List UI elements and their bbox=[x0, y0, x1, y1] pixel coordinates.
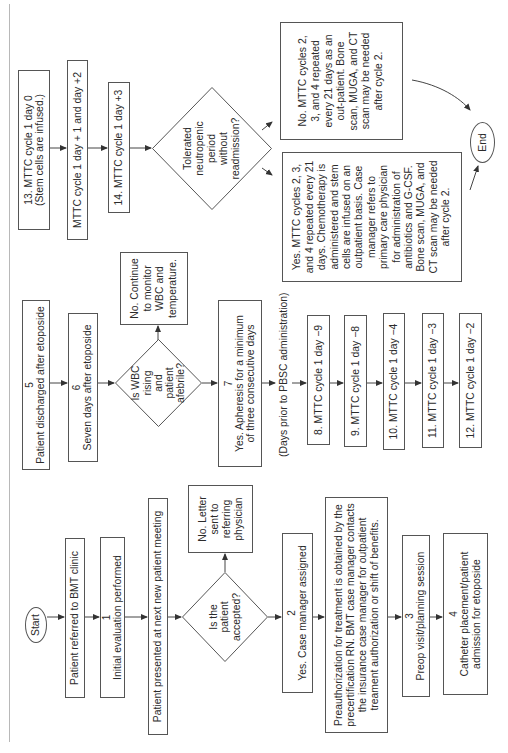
step-13-line2: (Stem cells are infused.) bbox=[34, 94, 45, 206]
flowchart-canvas: Start Patient referred to BMT clinic 1 I… bbox=[0, 0, 508, 753]
preauthorization-box: Preauthorization for treatment is obtain… bbox=[325, 497, 388, 733]
step-3-box: 3 Preop visit/planning session bbox=[402, 535, 430, 697]
meeting-box: Patient presented at next new patient me… bbox=[148, 498, 168, 735]
step-9-box: 9. MTTC cycle 1 day −8 bbox=[344, 315, 367, 447]
day-plus-text: MTTC cycle 1 day + 1 and day +2 bbox=[72, 72, 83, 228]
step-1-box: 1 Initial evaluation performed bbox=[100, 537, 125, 698]
day-plus-box: MTTC cycle 1 day + 1 and day +2 bbox=[67, 60, 88, 240]
step-7-number: 7 bbox=[224, 381, 234, 387]
step-2-number: 2 bbox=[287, 610, 297, 616]
step-3-number: 3 bbox=[405, 613, 415, 619]
step-8-box: 8. MTTC cycle 1 day −9 bbox=[307, 315, 330, 445]
no-monitor-box: No. Continue to monitor WBC and temperat… bbox=[120, 252, 188, 325]
days-prior-text: (Days prior to PBSC administration) bbox=[278, 292, 289, 457]
step-13-line1: 13. MTTC cycle 1 day 0 bbox=[23, 95, 34, 205]
decision-neutropenic: Tolerated neutropenic period without rea… bbox=[152, 87, 272, 210]
no-outpatient-text: No. MTTC cycles 2, 3, and 4 repeated eve… bbox=[297, 31, 385, 131]
step-2-box: 2 Yes. Case manager assigned bbox=[282, 533, 313, 693]
yes-outpatient-text: Yes. MTTC cycles 2, 3, and 4 repeated ev… bbox=[291, 159, 452, 275]
step-3-text: Preop visit/planning session bbox=[415, 552, 426, 681]
step-8-text: 8. MTTC cycle 1 day −9 bbox=[313, 325, 324, 435]
step-4-box: 4 Catheter placement/patient admission f… bbox=[443, 533, 488, 695]
step-6-text: Seven days after etoposide bbox=[82, 325, 93, 451]
step-5-box: 5 Patient discharged after etoposide bbox=[22, 300, 50, 470]
step-13-box: 13. MTTC cycle 1 day 0 (Stem cells are i… bbox=[18, 70, 50, 230]
decision-neutropenic-text: Tolerated neutropenic period without rea… bbox=[182, 117, 242, 180]
referred-box: Patient referred to BMT clinic bbox=[65, 538, 85, 698]
no-letter-box: No. Letter sent to referring physician bbox=[188, 485, 253, 553]
step-11-text: 11. MTTC cycle 1 day −3 bbox=[427, 323, 438, 438]
step-11-box: 11. MTTC cycle 1 day −3 bbox=[422, 313, 444, 448]
step-9-text: 9. MTTC cycle 1 day −8 bbox=[350, 326, 361, 436]
days-prior-label: (Days prior to PBSC administration) bbox=[278, 297, 290, 457]
no-letter-text: No. Letter sent to referring physician bbox=[197, 489, 245, 549]
no-outpatient-box: No. MTTC cycles 2, 3, and 4 repeated eve… bbox=[280, 22, 403, 140]
decision-wbc-text: Is WBC rising and patient afebrile? bbox=[130, 363, 186, 403]
step-5-text: Patient discharged after etoposide bbox=[35, 306, 46, 464]
step-5-number: 5 bbox=[25, 382, 35, 388]
step-14-box: 14. MTTC cycle 1 day +3 bbox=[108, 82, 130, 213]
step-10-text: 10. MTTC cycle 1 day −4 bbox=[388, 324, 399, 440]
end-label: End bbox=[477, 133, 488, 152]
start-label: Start bbox=[30, 614, 41, 636]
step-6-box: 6 Seven days after etoposide bbox=[68, 313, 98, 462]
no-monitor-text: No. Continue to monitor WBC and temperat… bbox=[129, 256, 179, 321]
step-10-box: 10. MTTC cycle 1 day −4 bbox=[383, 313, 405, 450]
preauthorization-text: Preauthorization for treatment is obtain… bbox=[333, 501, 381, 729]
referred-text: Patient referred to BMT clinic bbox=[69, 551, 80, 685]
start-terminal: Start bbox=[25, 607, 47, 643]
step-14-text: 14. MTTC cycle 1 day +3 bbox=[113, 90, 124, 206]
step-4-text: Catheter placement/patient admission for… bbox=[459, 546, 482, 682]
decision-accepted: Is the patient accepted? bbox=[182, 572, 268, 662]
decision-wbc: Is WBC rising and patient afebrile? bbox=[115, 339, 202, 427]
step-12-text: 12. MTTC cycle 1 day −2 bbox=[465, 323, 476, 439]
meeting-text: Patient presented at next new patient me… bbox=[152, 511, 163, 722]
step-1-text: Initial evaluation performed bbox=[112, 555, 123, 680]
yes-outpatient-box: Yes. MTTC cycles 2, 3, and 4 repeated ev… bbox=[282, 152, 462, 282]
decision-accepted-text: Is the patient accepted? bbox=[208, 593, 243, 641]
step-2-text: Yes. Case manager assigned bbox=[297, 545, 308, 680]
step-7-box: 7 Yes. Apheresis for a minimum of three … bbox=[218, 300, 262, 467]
step-6-number: 6 bbox=[72, 385, 82, 391]
step-1-number: 1 bbox=[102, 615, 112, 621]
step-12-box: 12. MTTC cycle 1 day −2 bbox=[459, 313, 482, 448]
step-4-number: 4 bbox=[449, 611, 459, 617]
step-7-text: Yes. Apheresis for a minimum of three co… bbox=[234, 311, 257, 456]
end-terminal: End bbox=[470, 122, 495, 163]
